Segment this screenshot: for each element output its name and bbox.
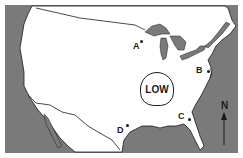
location-d-dot (126, 124, 129, 127)
low-pressure-system: LOW (140, 72, 174, 106)
compass-north-label: N (221, 100, 228, 111)
location-b-dot (207, 70, 210, 73)
location-c-dot (188, 118, 191, 121)
location-a-label: A (133, 42, 140, 51)
location-a-dot (140, 40, 143, 43)
low-pressure-label: LOW (145, 84, 168, 95)
location-b-label: B (196, 66, 203, 75)
location-d-label: D (117, 126, 124, 135)
location-c-label: C (178, 112, 185, 121)
weather-map: A B C D LOW N (0, 0, 243, 158)
